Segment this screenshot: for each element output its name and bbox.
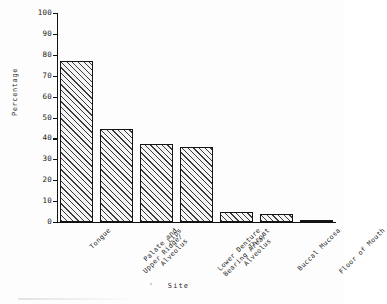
y-tick-label: 80 — [43, 50, 52, 59]
y-tick-mark — [53, 97, 57, 98]
y-tick-mark — [53, 55, 57, 56]
y-tick-mark — [53, 138, 57, 139]
plot-area: 0102030405060708090100 TonguePalate and … — [57, 13, 336, 222]
bar — [100, 129, 133, 222]
bar — [60, 61, 93, 222]
bar — [300, 220, 333, 222]
x-tick-label: Buccal Mucosa — [297, 227, 343, 273]
y-tick-mark — [53, 76, 57, 77]
x-axis-label: Site — [0, 282, 345, 290]
y-tick-label: 100 — [38, 8, 52, 17]
x-tick-label: Floor of Mouth — [338, 227, 387, 276]
x-tick-label: Tongue — [89, 227, 113, 251]
bar — [140, 144, 173, 222]
x-tick-label: Palate and Upper Ridge/ Alveolus — [136, 227, 190, 281]
y-tick-mark — [53, 13, 57, 14]
y-axis-label: Percentage — [11, 57, 19, 127]
bar — [220, 212, 253, 222]
y-tick-label: 0 — [47, 217, 52, 226]
bar — [180, 147, 213, 222]
y-tick-mark — [53, 34, 57, 35]
y-tick-label: 60 — [43, 92, 52, 101]
y-axis-line — [57, 13, 58, 222]
x-axis-line — [57, 222, 336, 223]
y-tick-mark — [53, 159, 57, 160]
y-tick-label: 20 — [43, 175, 52, 184]
stray-mark — [150, 283, 152, 285]
bar — [260, 214, 293, 222]
y-tick-label: 70 — [43, 71, 52, 80]
y-tick-mark — [53, 180, 57, 181]
y-tick-label: 50 — [43, 113, 52, 122]
y-tick-mark — [53, 222, 57, 223]
y-tick-label: 40 — [43, 133, 52, 142]
y-tick-label: 10 — [43, 196, 52, 205]
y-tick-mark — [53, 201, 57, 202]
y-tick-label: 90 — [43, 29, 52, 38]
y-tick-mark — [53, 118, 57, 119]
bottom-smudge — [18, 298, 138, 300]
x-axis-label-text: Site — [168, 282, 189, 290]
y-tick-label: 30 — [43, 154, 52, 163]
